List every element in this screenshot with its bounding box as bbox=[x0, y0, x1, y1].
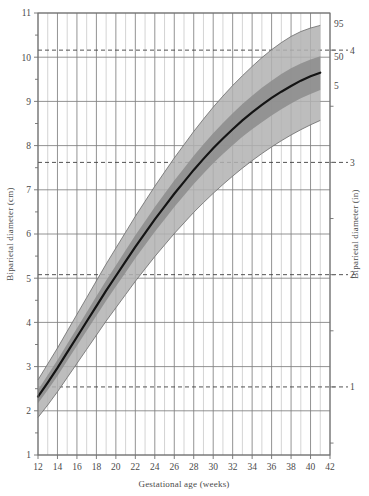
x-tick-label-28: 28 bbox=[189, 462, 199, 472]
percentile-label-50: 50 bbox=[334, 52, 344, 62]
x-tick-label-34: 34 bbox=[247, 462, 257, 472]
x-tick-label-32: 32 bbox=[228, 462, 238, 472]
x-tick-label-36: 36 bbox=[267, 462, 277, 472]
x-tick-label-20: 20 bbox=[111, 462, 121, 472]
biparietal-diameter-growth-chart: 1234567891011121416182022242628303234363… bbox=[0, 0, 369, 496]
y-tick-label-11: 11 bbox=[22, 8, 31, 18]
x-tick-label-38: 38 bbox=[286, 462, 296, 472]
y-tick-label-9: 9 bbox=[26, 97, 31, 107]
y-tick-label-10: 10 bbox=[22, 53, 32, 63]
y-tick-label-5: 5 bbox=[26, 274, 31, 284]
x-tick-label-18: 18 bbox=[92, 462, 102, 472]
y-tick-label-4: 4 bbox=[26, 318, 31, 328]
x-tick-label-24: 24 bbox=[150, 462, 160, 472]
x-tick-label-12: 12 bbox=[33, 462, 43, 472]
x-tick-label-14: 14 bbox=[53, 462, 63, 472]
y-tick-label-2: 2 bbox=[26, 406, 31, 416]
y-right-tick-label-1: 1 bbox=[350, 382, 355, 392]
percentile-label-95: 95 bbox=[334, 19, 344, 29]
y-axis-title: Biparietal diameter (cm) bbox=[5, 187, 15, 280]
y-tick-label-1: 1 bbox=[26, 450, 31, 460]
y-tick-label-8: 8 bbox=[26, 141, 31, 151]
x-tick-label-30: 30 bbox=[208, 462, 218, 472]
y-tick-label-3: 3 bbox=[26, 362, 31, 372]
y-tick-label-7: 7 bbox=[26, 185, 31, 195]
x-axis-title: Gestational age (weeks) bbox=[138, 479, 229, 489]
y-axis-title-right: Biparietal diameter (in) bbox=[350, 189, 360, 278]
y-tick-label-6: 6 bbox=[26, 229, 31, 239]
y-right-tick-label-3: 3 bbox=[350, 158, 355, 168]
x-tick-label-16: 16 bbox=[72, 462, 82, 472]
x-tick-label-26: 26 bbox=[170, 462, 180, 472]
x-tick-label-40: 40 bbox=[306, 462, 316, 472]
x-tick-label-42: 42 bbox=[325, 462, 335, 472]
chart-canvas: 1234567891011121416182022242628303234363… bbox=[0, 0, 369, 496]
y-right-tick-label-4: 4 bbox=[350, 46, 355, 56]
x-tick-label-22: 22 bbox=[131, 462, 141, 472]
percentile-label-5: 5 bbox=[334, 81, 339, 91]
